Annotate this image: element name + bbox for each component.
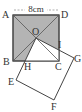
- label-b: B: [3, 56, 10, 67]
- label-o: O: [32, 26, 39, 37]
- label-e: E: [8, 76, 14, 87]
- label-g: G: [74, 53, 81, 64]
- label-f: F: [51, 101, 57, 112]
- geometry-figure: 8cm A D B C O H I G E F: [0, 0, 82, 112]
- label-c: C: [55, 61, 62, 72]
- label-i: I: [58, 39, 61, 50]
- dimension-label: 8cm: [28, 4, 44, 14]
- label-d: D: [61, 9, 68, 20]
- label-h: H: [24, 61, 31, 72]
- label-a: A: [2, 9, 10, 20]
